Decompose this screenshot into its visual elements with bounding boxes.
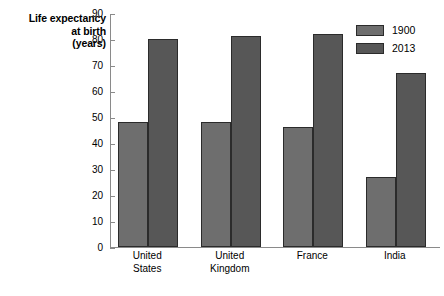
bar-1900-india: [366, 177, 396, 247]
x-axis-label-line-1: India: [350, 250, 440, 263]
x-axis-label-line-1: United: [102, 250, 192, 263]
y-tick-label-90: 90: [63, 9, 103, 19]
chart-legend: 1900 2013: [356, 23, 440, 59]
y-tick-label-60: 60: [63, 87, 103, 97]
y-tick-label-20: 20: [63, 191, 103, 201]
y-tick-label-0: 0: [63, 243, 103, 253]
x-axis-label-line-2: Kingdom: [185, 263, 275, 276]
bar-1900-united-states: [118, 122, 148, 247]
legend-label-1900: 1900: [392, 25, 415, 36]
bar-chart: Life expectancy at birth (years) 0102030…: [0, 0, 444, 296]
x-axis-label-india: India: [350, 250, 440, 263]
bar-2013-united-kingdom: [231, 36, 261, 247]
y-tick-label-50: 50: [63, 113, 103, 123]
x-axis-label-line-1: United: [185, 250, 275, 263]
x-axis-line: [110, 247, 440, 248]
legend-swatch-2013: [356, 43, 384, 54]
x-axis-label-united-states: UnitedStates: [102, 250, 192, 275]
legend-item-2013: 2013: [356, 41, 440, 55]
bar-2013-united-states: [148, 39, 178, 247]
legend-label-2013: 2013: [392, 43, 415, 54]
y-tick-label-80: 80: [63, 35, 103, 45]
y-tick-label-70: 70: [63, 61, 103, 71]
y-tick-label-40: 40: [63, 139, 103, 149]
bar-1900-france: [283, 127, 313, 247]
bar-2013-france: [313, 34, 343, 247]
x-axis-label-line-1: France: [267, 250, 357, 263]
x-axis-label-line-2: States: [102, 263, 192, 276]
x-axis-label-france: France: [267, 250, 357, 263]
bar-2013-india: [396, 73, 426, 247]
x-axis-label-united-kingdom: UnitedKingdom: [185, 250, 275, 275]
legend-item-1900: 1900: [356, 23, 440, 37]
x-axis-labels: UnitedStatesUnitedKingdomFranceIndia: [110, 250, 440, 290]
legend-swatch-1900: [356, 25, 384, 36]
y-tick-label-10: 10: [63, 217, 103, 227]
y-tick-0: 0: [110, 248, 115, 249]
bar-1900-united-kingdom: [201, 122, 231, 247]
y-tick-label-30: 30: [63, 165, 103, 175]
